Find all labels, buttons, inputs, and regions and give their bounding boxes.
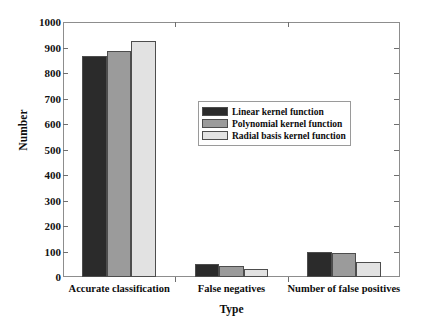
x-axis-tick-mark	[288, 277, 289, 282]
x-axis-title: Type	[63, 303, 400, 315]
bar	[131, 41, 156, 277]
legend-swatch-linear-kernel-function	[202, 107, 228, 116]
y-axis-tick-label: 700	[0, 93, 61, 105]
y-axis-tick-label: 600	[0, 118, 61, 130]
y-axis-tick-mark	[63, 252, 68, 253]
chart-legend: Linear kernel function Polynomial kernel…	[198, 101, 351, 146]
x-axis-tick-label: Number of false positives	[287, 283, 400, 294]
y-axis-tick-label: 400	[0, 169, 61, 181]
legend-swatch-polynomial-kernel-function	[202, 119, 228, 128]
y-axis-tick-mark	[63, 150, 68, 151]
y-axis-tick-mark	[63, 175, 68, 176]
legend-label-polynomial-kernel-function: Polynomial kernel function	[232, 119, 342, 129]
x-axis-tick-mark	[175, 277, 176, 282]
y-axis-tick-mark	[63, 124, 68, 125]
y-axis-tick-mark	[63, 99, 68, 100]
y-axis-tick-label: 500	[0, 144, 61, 156]
y-axis-tick-label: 300	[0, 195, 61, 207]
bar	[307, 252, 332, 278]
y-axis-tick-mark	[63, 226, 68, 227]
y-axis-tick-label: 1000	[0, 16, 61, 28]
y-axis-tick-mark	[63, 201, 68, 202]
y-axis-tick-label: 200	[0, 220, 61, 232]
y-axis-tick-mark	[394, 73, 399, 74]
legend-swatch-radial-basis-kernel-function	[202, 131, 228, 140]
legend-item: Radial basis kernel function	[202, 130, 346, 141]
y-axis-tick-mark	[394, 99, 399, 100]
x-axis-tick-mark	[175, 22, 176, 27]
bar-chart-figure: Number 01002003004005006007008009001000 …	[0, 0, 424, 324]
y-axis-tick-mark	[394, 201, 399, 202]
y-axis-tick-label: 800	[0, 67, 61, 79]
y-axis-tick-mark	[394, 124, 399, 125]
bar	[82, 56, 107, 277]
legend-label-radial-basis-kernel-function: Radial basis kernel function	[232, 131, 346, 141]
y-axis-tick-label: 0	[0, 271, 61, 283]
y-axis-tick-mark	[394, 252, 399, 253]
y-axis-tick-label: 100	[0, 246, 61, 258]
bar	[332, 253, 357, 277]
y-axis-tick-mark	[394, 226, 399, 227]
y-axis-tick-label: 900	[0, 42, 61, 54]
legend-item: Linear kernel function	[202, 106, 346, 117]
bar	[195, 264, 220, 277]
legend-item: Polynomial kernel function	[202, 118, 346, 129]
legend-label-linear-kernel-function: Linear kernel function	[232, 107, 324, 117]
bar	[219, 266, 244, 277]
y-axis-tick-mark	[394, 48, 399, 49]
y-axis-tick-mark	[394, 175, 399, 176]
x-axis-tick-label: False negatives	[198, 283, 265, 294]
bar	[356, 262, 381, 277]
y-axis-tick-mark	[394, 150, 399, 151]
y-axis-tick-mark	[63, 73, 68, 74]
x-axis-tick-mark	[288, 22, 289, 27]
x-axis-tick-label: Accurate classification	[69, 283, 170, 294]
bar	[107, 51, 132, 277]
y-axis-tick-mark	[63, 48, 68, 49]
bar	[244, 269, 269, 277]
